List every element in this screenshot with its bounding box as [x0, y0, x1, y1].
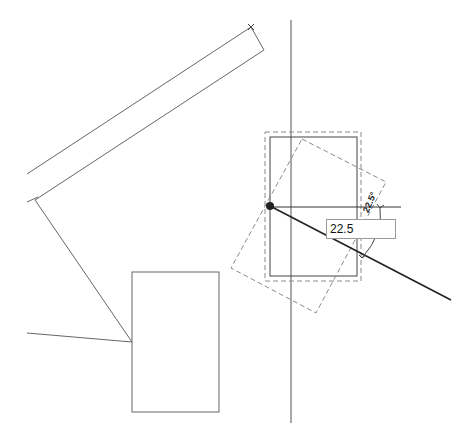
angle-value-input[interactable]: [326, 219, 396, 239]
canvas-background: [0, 0, 472, 444]
drawing-canvas[interactable]: [0, 0, 472, 444]
snap-point-icon[interactable]: [266, 202, 274, 210]
